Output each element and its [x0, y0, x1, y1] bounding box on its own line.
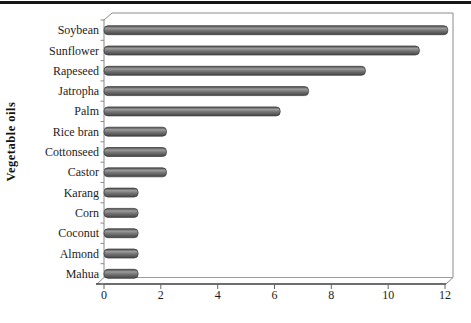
- bar-almond: [104, 249, 138, 258]
- category-label-corn: Corn: [75, 206, 99, 220]
- bar-sunflower: [104, 46, 419, 55]
- bar-rapeseed: [104, 66, 365, 75]
- bar-castor: [104, 168, 167, 177]
- category-label-cottonseed: Cottonseed: [45, 145, 99, 159]
- x-tick-label-6: 6: [272, 288, 278, 302]
- x-tick-label-8: 8: [328, 288, 334, 302]
- category-label-jatropha: Jatropha: [58, 84, 99, 98]
- category-label-coconut: Coconut: [58, 226, 99, 240]
- category-label-palm: Palm: [74, 104, 99, 118]
- bar-karang: [104, 188, 138, 197]
- category-label-mahua: Mahua: [66, 267, 100, 281]
- bar-palm: [104, 107, 280, 116]
- bar-jatropha: [104, 87, 309, 96]
- category-label-rapeseed: Rapeseed: [53, 64, 99, 78]
- category-label-soybean: Soybean: [58, 23, 99, 37]
- floor-edge-right: [446, 278, 453, 285]
- bar-coconut: [104, 229, 138, 238]
- category-label-rice-bran: Rice bran: [53, 125, 99, 139]
- bar-rice-bran: [104, 127, 167, 136]
- category-label-almond: Almond: [60, 247, 99, 261]
- category-label-sunflower: Sunflower: [49, 44, 99, 58]
- bar-chart-canvas: SoybeanSunflowerRapeseedJatrophaPalmRice…: [0, 0, 471, 323]
- category-label-castor: Castor: [68, 165, 99, 179]
- category-label-karang: Karang: [64, 186, 99, 200]
- bar-corn: [104, 208, 138, 217]
- bar-mahua: [104, 269, 138, 278]
- x-tick-label-12: 12: [439, 288, 451, 302]
- figure-page: Vegetable oils SoybeanSunflowerRapeseedJ…: [0, 0, 471, 323]
- x-tick-label-4: 4: [215, 288, 221, 302]
- bar-soybean: [104, 26, 448, 35]
- x-tick-label-0: 0: [101, 288, 107, 302]
- x-tick-label-10: 10: [382, 288, 394, 302]
- bar-cottonseed: [104, 148, 167, 157]
- x-tick-label-2: 2: [158, 288, 164, 302]
